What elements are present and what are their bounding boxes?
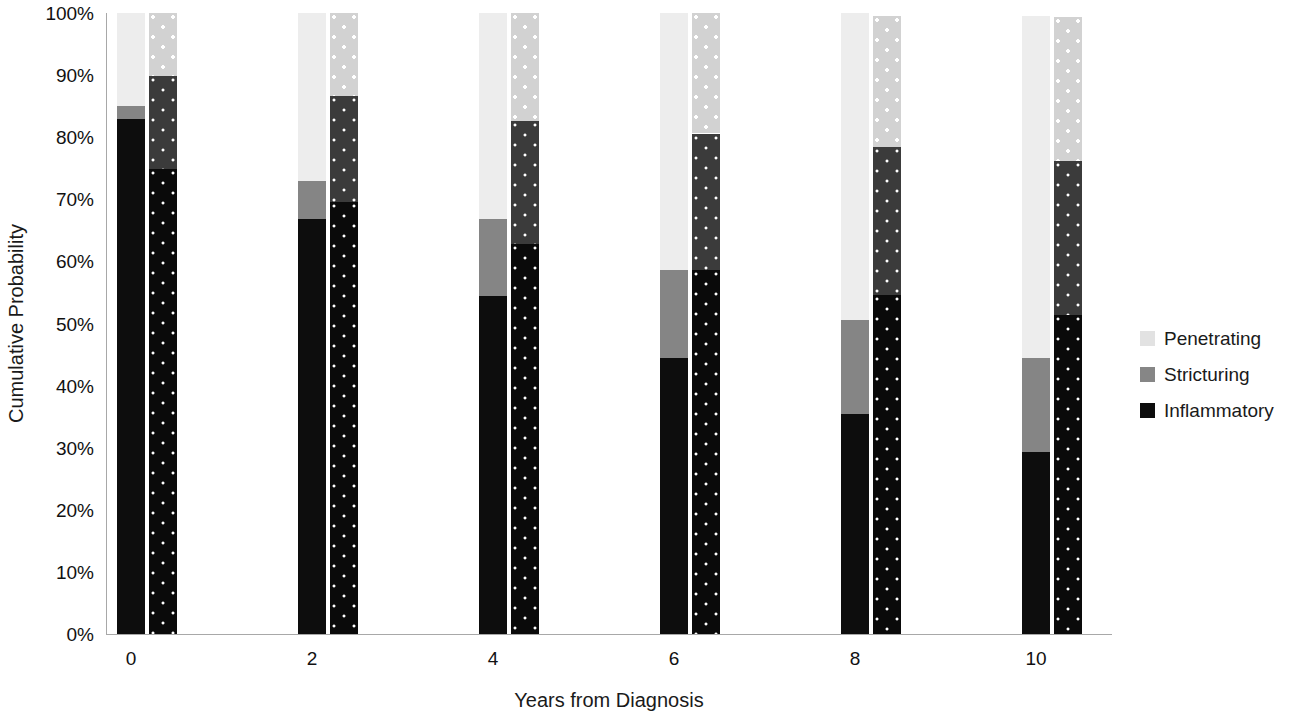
bar-10-dotted — [1054, 17, 1082, 634]
bar-4-dotted — [511, 13, 539, 634]
x-axis-tick-label: 2 — [282, 648, 342, 670]
bar-segment-penetrating — [479, 13, 507, 219]
y-axis-tick-label: 90% — [30, 66, 94, 85]
legend-item-penetrating[interactable]: Penetrating — [1140, 320, 1290, 356]
bar-segment-stricturing — [117, 106, 145, 119]
bar-segment-penetrating — [692, 13, 720, 133]
bar-segment-penetrating — [873, 16, 901, 148]
bar-segment-inflammatory — [660, 358, 688, 634]
bar-segment-inflammatory — [841, 414, 869, 634]
bar-8-solid — [841, 13, 869, 634]
bar-segment-inflammatory — [1022, 452, 1050, 634]
bar-segment-stricturing — [1054, 161, 1082, 316]
bar-segment-penetrating — [1022, 16, 1050, 359]
bar-segment-stricturing — [298, 181, 326, 219]
bar-segment-inflammatory — [149, 169, 177, 634]
bar-segment-inflammatory — [330, 202, 358, 634]
y-axis-tick-label: 10% — [30, 563, 94, 582]
bar-segment-stricturing — [330, 96, 358, 202]
bar-segment-penetrating — [1054, 17, 1082, 160]
x-axis-tick-label: 8 — [825, 648, 885, 670]
y-axis-title: Cumulative Probability — [2, 13, 30, 634]
y-axis-tick-label: 60% — [30, 252, 94, 271]
y-axis-tick-label: 80% — [30, 128, 94, 147]
bar-2-solid — [298, 13, 326, 634]
legend-swatch-icon — [1140, 367, 1155, 382]
plot-area — [106, 13, 1110, 634]
bar-segment-stricturing — [692, 134, 720, 271]
legend-swatch-icon — [1140, 403, 1155, 418]
bar-segment-inflammatory — [117, 119, 145, 634]
bar-segment-stricturing — [1022, 358, 1050, 452]
bar-segment-stricturing — [149, 76, 177, 169]
bar-segment-inflammatory — [873, 295, 901, 634]
bar-6-dotted — [692, 13, 720, 634]
bar-8-dotted — [873, 15, 901, 634]
x-axis-tick-label: 4 — [463, 648, 523, 670]
y-axis-tick-label: 50% — [30, 315, 94, 334]
bar-segment-stricturing — [660, 270, 688, 358]
bar-0-dotted — [149, 13, 177, 634]
x-axis-tick-label: 6 — [644, 648, 704, 670]
y-axis-tick-label: 100% — [30, 4, 94, 23]
bar-4-solid — [479, 13, 507, 634]
bar-6-solid — [660, 13, 688, 634]
bar-segment-penetrating — [149, 13, 177, 76]
bar-segment-inflammatory — [511, 244, 539, 634]
x-axis-line — [106, 634, 1112, 635]
y-axis-tick-label: 70% — [30, 190, 94, 209]
y-axis-tick-label: 20% — [30, 501, 94, 520]
stacked-bar-chart: Cumulative Probability 0%10%20%30%40%50%… — [0, 0, 1297, 718]
bar-segment-penetrating — [660, 13, 688, 270]
bar-segment-inflammatory — [298, 219, 326, 634]
x-axis-tick-label: 10 — [1006, 648, 1066, 670]
y-axis-tick-label: 40% — [30, 377, 94, 396]
bar-2-dotted — [330, 13, 358, 634]
legend-item-label: Stricturing — [1164, 365, 1250, 384]
legend-item-inflammatory[interactable]: Inflammatory — [1140, 392, 1290, 428]
x-axis-title: Years from Diagnosis — [106, 688, 1112, 712]
y-axis-tick-label: 30% — [30, 439, 94, 458]
bar-segment-penetrating — [841, 13, 869, 320]
bar-segment-penetrating — [511, 13, 539, 121]
chart-legend: PenetratingStricturingInflammatory — [1140, 320, 1290, 428]
bar-segment-stricturing — [873, 147, 901, 295]
legend-item-label: Inflammatory — [1164, 401, 1274, 420]
bar-segment-inflammatory — [692, 270, 720, 634]
legend-swatch-icon — [1140, 331, 1155, 346]
legend-item-stricturing[interactable]: Stricturing — [1140, 356, 1290, 392]
bar-segment-inflammatory — [1054, 315, 1082, 634]
bar-0-solid — [117, 13, 145, 634]
y-axis-tick-labels: 0%10%20%30%40%50%60%70%80%90%100% — [30, 0, 94, 718]
bar-segment-penetrating — [117, 13, 145, 106]
y-axis-tick-label: 0% — [30, 625, 94, 644]
bar-segment-stricturing — [841, 320, 869, 414]
bar-segment-inflammatory — [479, 296, 507, 634]
bar-segment-stricturing — [479, 219, 507, 295]
bar-segment-stricturing — [511, 121, 539, 244]
x-axis-tick-label: 0 — [101, 648, 161, 670]
legend-item-label: Penetrating — [1164, 329, 1261, 348]
bar-segment-penetrating — [330, 13, 358, 96]
bar-10-solid — [1022, 15, 1050, 634]
bar-segment-penetrating — [298, 13, 326, 181]
